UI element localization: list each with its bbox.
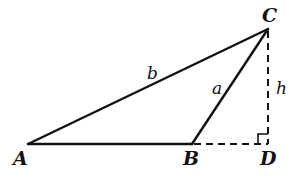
vertex-label-b: B — [182, 147, 199, 169]
right-angle-marker — [258, 134, 268, 144]
vertex-label-a: A — [11, 147, 28, 169]
side-b-ac — [28, 29, 268, 144]
triangle-diagram: A B C D b a h — [0, 0, 293, 195]
vertex-label-c: C — [262, 4, 277, 26]
side-label-b: b — [147, 63, 158, 83]
altitude-label-h: h — [276, 78, 287, 98]
side-label-a: a — [212, 78, 222, 98]
vertex-label-d: D — [259, 147, 277, 169]
